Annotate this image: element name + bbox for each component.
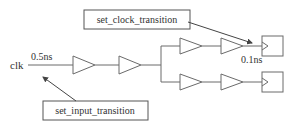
buffer-icon (119, 56, 141, 74)
set-input-transition-callout: set_input_transition (43, 77, 148, 120)
flip-flop-upper (262, 36, 283, 56)
clock-tree-diagram: clk 0.5ns 0.1ns set_clock_transition set (0, 0, 290, 131)
set-clock-transition-label: set_clock_transition (97, 14, 178, 25)
set-clock-transition-callout: set_clock_transition (84, 10, 252, 43)
clk-port-label: clk (10, 59, 24, 71)
flip-flop-lower (262, 72, 283, 92)
buffer-icon (221, 74, 243, 90)
flip-flop-icon (262, 36, 283, 56)
buffer-icon (180, 74, 202, 90)
flip-flop-icon (262, 72, 283, 92)
buffer-icon (221, 38, 243, 54)
arrow-icon (188, 22, 252, 43)
buffer-icon (180, 38, 202, 54)
arrow-icon (43, 77, 76, 101)
input-transition-value: 0.5ns (31, 51, 53, 62)
clock-transition-value: 0.1ns (241, 54, 263, 65)
buffer-icon (73, 56, 95, 74)
set-input-transition-label: set_input_transition (55, 105, 134, 116)
